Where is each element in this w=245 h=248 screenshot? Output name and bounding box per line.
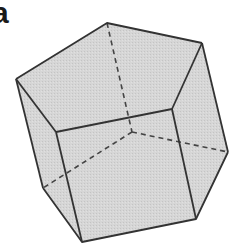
pentagonal-prism-diagram	[0, 0, 245, 248]
